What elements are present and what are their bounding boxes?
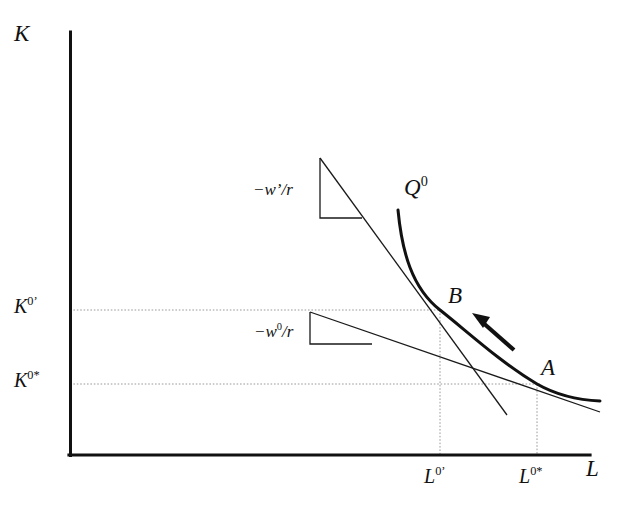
slope-triangle-old xyxy=(310,312,372,344)
x-tick-label-l0star: L0* xyxy=(519,466,543,486)
point-label-b: B xyxy=(448,284,462,307)
isoquant-label: Q0 xyxy=(404,176,428,199)
x-tick-label-l0prime: L0’ xyxy=(424,466,445,486)
y-axis-label: K xyxy=(14,22,29,45)
isoquant-curve xyxy=(398,210,600,401)
y-tick-label-k0star: K0* xyxy=(14,370,40,390)
isocost-old-slope-label: −w0/r xyxy=(254,323,293,340)
x-axis-label: L xyxy=(586,457,599,480)
isoquant-isocost-figure: K L K0’ K0* L0’ L0* Q0 −w’/r −w0/r B A xyxy=(0,0,619,509)
figure-canvas xyxy=(0,0,619,509)
point-label-a: A xyxy=(541,356,555,379)
isocost-new-slope-label: −w’/r xyxy=(253,181,293,198)
shift-arrow xyxy=(472,313,514,350)
y-tick-label-k0prime: K0’ xyxy=(14,296,38,316)
isocost-old-line xyxy=(310,312,600,412)
